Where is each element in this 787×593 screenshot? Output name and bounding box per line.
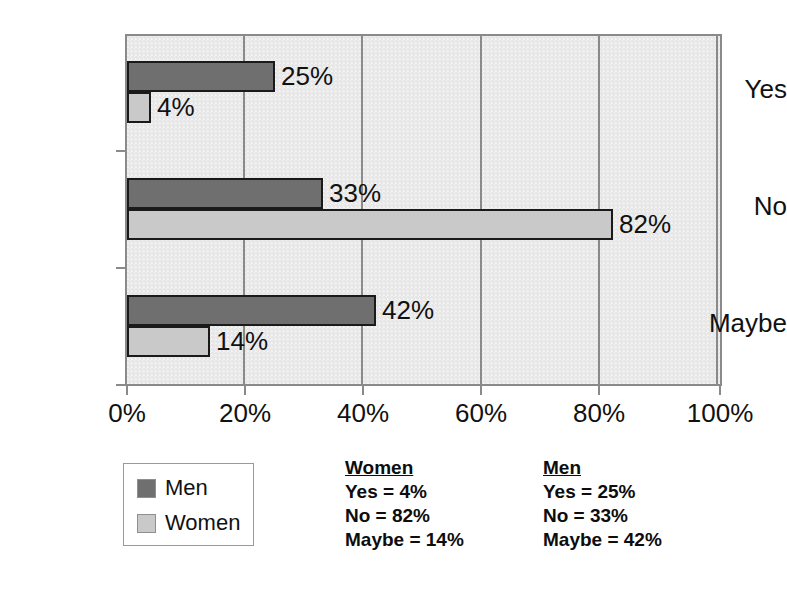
y-axis-tick [116, 267, 126, 269]
y-axis-label-yes: Yes [677, 74, 787, 105]
legend-item-women: Women [137, 510, 240, 536]
y-axis-label-maybe: Maybe [677, 308, 787, 339]
y-axis-tick [116, 384, 126, 386]
x-axis-tick-label-40: 40% [303, 398, 423, 429]
bar-no-women [127, 209, 613, 240]
x-axis-tick [362, 386, 364, 395]
x-axis-tick [598, 386, 600, 395]
summary-men-yes: Yes = 25% [543, 480, 662, 504]
bar-maybe-men [127, 295, 376, 326]
y-axis-tick [116, 150, 126, 152]
bar-label-no-women: 82% [619, 209, 671, 240]
summary-women-yes: Yes = 4% [345, 480, 464, 504]
legend-swatch-women-icon [137, 514, 156, 533]
x-axis-tick-label-60: 60% [421, 398, 541, 429]
x-axis-tick-label-20: 20% [185, 398, 305, 429]
legend-label-men: Men [165, 475, 208, 501]
summary-women-no: No = 82% [345, 504, 464, 528]
summary-women-title: Women [345, 456, 464, 480]
summary-men-maybe: Maybe = 42% [543, 528, 662, 552]
legend-label-women: Women [165, 510, 240, 536]
x-axis-tick [480, 386, 482, 395]
bar-label-yes-women: 4% [157, 92, 195, 123]
bar-maybe-women [127, 326, 210, 357]
x-axis-tick-label-0: 0% [67, 398, 187, 429]
x-axis-line [125, 384, 722, 386]
bar-label-yes-men: 25% [281, 61, 333, 92]
chart-legend: Men Women [123, 463, 254, 546]
bar-label-maybe-women: 14% [216, 326, 268, 357]
x-axis-tick [126, 386, 128, 395]
legend-swatch-men-icon [137, 479, 156, 498]
summary-men-no: No = 33% [543, 504, 662, 528]
bar-label-maybe-men: 42% [382, 295, 434, 326]
summary-men-title: Men [543, 456, 662, 480]
x-axis-tick [244, 386, 246, 395]
legend-item-men: Men [137, 475, 208, 501]
bar-yes-women [127, 92, 151, 123]
bar-label-no-men: 33% [329, 178, 381, 209]
summary-men: Men Yes = 25% No = 33% Maybe = 42% [543, 456, 662, 552]
bar-yes-men [127, 61, 275, 92]
x-axis-tick-label-100: 100% [660, 398, 780, 429]
summary-women: Women Yes = 4% No = 82% Maybe = 14% [345, 456, 464, 552]
x-axis-tick [719, 386, 721, 395]
x-axis-tick-label-80: 80% [539, 398, 659, 429]
bar-no-men [127, 178, 323, 209]
summary-women-maybe: Maybe = 14% [345, 528, 464, 552]
y-axis-label-no: No [677, 191, 787, 222]
